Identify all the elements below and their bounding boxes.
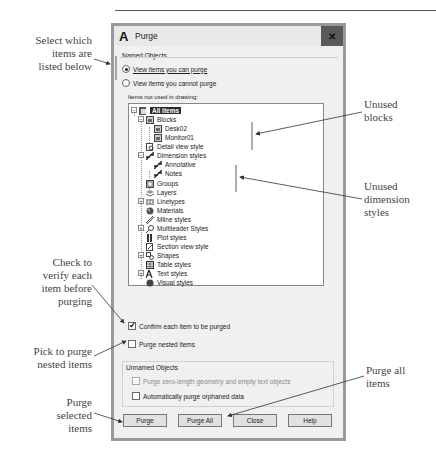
named-objects-divider: [119, 57, 338, 59]
radio-view-can-purge[interactable]: View items you can purge: [122, 65, 207, 73]
shape-icon: [146, 252, 154, 260]
mline-icon: [146, 216, 154, 224]
page-rule: [115, 10, 436, 11]
linetype-icon: [146, 198, 154, 206]
title-bar[interactable]: A Purge ✕: [114, 26, 343, 46]
callout-line: selected: [2, 409, 92, 422]
callout-line: nested items: [2, 358, 92, 371]
callout-purge-all: Purge all items: [366, 364, 405, 390]
tree-item-visual-styles[interactable]: Visual styles: [146, 278, 193, 287]
close-icon: ✕: [328, 31, 336, 42]
layers-icon: [146, 189, 154, 197]
dialog-title: Purge: [135, 31, 158, 41]
purge-nested-items-checkbox[interactable]: Purge nested items: [128, 340, 195, 348]
callout-line: Unused: [364, 180, 410, 193]
tree-item-groups[interactable]: Groups: [146, 179, 178, 188]
tree-item-label: Monitor01: [165, 134, 194, 141]
tree-item-notes[interactable]: Notes: [154, 169, 182, 178]
radio-view-cannot-purge[interactable]: View items you cannot purge: [122, 79, 216, 87]
callout-line: blocks: [364, 111, 398, 124]
help-button[interactable]: Help: [288, 414, 332, 427]
collapse-toggle[interactable]: −: [138, 152, 144, 158]
expand-toggle[interactable]: +: [138, 270, 144, 276]
tree-item-annotative[interactable]: Annotative: [154, 160, 196, 169]
collapse-toggle[interactable]: −: [138, 116, 144, 122]
callout-line: Pick to purge: [2, 345, 92, 358]
purge-all-button[interactable]: Purge All: [178, 414, 222, 427]
tree-item-text-styles[interactable]: Text styles: [146, 269, 187, 278]
block-icon: [154, 134, 162, 142]
tree-item-dimension-styles[interactable]: Dimension styles: [146, 151, 206, 160]
auto-purge-orphaned-checkbox[interactable]: Automatically purge orphaned data: [132, 392, 244, 400]
tree-item-label: Detail view style: [157, 143, 204, 150]
tree-item-label: Notes: [165, 170, 182, 177]
items-tree[interactable]: − All items − Blocks Desk02 Monitor01 De…: [128, 103, 324, 286]
checkbox-checked[interactable]: [128, 322, 136, 330]
dialog-body: A Purge ✕ Named Objects View items you c…: [114, 26, 343, 438]
purge-zero-length-checkbox[interactable]: Purge zero-length geometry and empty tex…: [132, 377, 290, 385]
autocad-app-icon: A: [119, 29, 131, 44]
drawing-icon: [139, 107, 147, 115]
checkbox-disabled[interactable]: [132, 377, 140, 385]
confirm-each-item-checkbox[interactable]: Confirm each item to be purged: [128, 322, 230, 330]
table-icon: [146, 261, 154, 269]
expand-toggle[interactable]: +: [138, 198, 144, 204]
tree-item-blocks[interactable]: Blocks: [146, 115, 176, 124]
tree-item-multileader-styles[interactable]: Multileader Styles: [146, 224, 208, 233]
tree-item-label: Groups: [157, 180, 178, 187]
tree-item-shapes[interactable]: Shapes: [146, 251, 179, 260]
tree-item-label: All items: [150, 107, 181, 114]
checkbox[interactable]: [128, 340, 136, 348]
callout-pick-nested: Pick to purge nested items: [2, 345, 92, 371]
expand-toggle[interactable]: +: [138, 225, 144, 231]
block-icon: [154, 125, 162, 133]
tree-item-table-styles[interactable]: Table styles: [146, 260, 191, 269]
tree-item-label: Text styles: [157, 270, 187, 277]
callout-line: styles: [364, 206, 410, 219]
tree-item-label: Annotative: [165, 161, 196, 168]
callout-line: Purge: [2, 396, 92, 409]
expand-toggle[interactable]: +: [138, 252, 144, 258]
tree-item-label: Materials: [157, 207, 183, 214]
tree-item-section-view-style[interactable]: Section view style: [146, 242, 209, 251]
tree-item-label: Dimension styles: [157, 152, 206, 159]
tree-item-label: Plot styles: [157, 234, 187, 241]
callout-line: item before: [2, 282, 92, 295]
tree-item-linetypes[interactable]: Linetypes: [146, 197, 185, 206]
callout-select-which-items: Select which items are listed below: [2, 34, 92, 73]
callout-check-to-verify: Check to verify each item before purging: [2, 256, 92, 308]
tree-item-detail-view-style[interactable]: Detail view style: [146, 142, 204, 151]
text-style-icon: [146, 270, 154, 278]
tree-item-layers[interactable]: Layers: [146, 188, 177, 197]
callout-line: purging: [2, 295, 92, 308]
close-window-button[interactable]: ✕: [321, 26, 343, 46]
tree-item-mline-styles[interactable]: Mline styles: [146, 215, 191, 224]
collapse-toggle[interactable]: −: [131, 107, 137, 113]
checkbox-label: Purge zero-length geometry and empty tex…: [143, 378, 290, 385]
tree-item-monitor01[interactable]: Monitor01: [154, 133, 194, 142]
tree-item-desk02[interactable]: Desk02: [154, 124, 187, 133]
callout-line: Purge all: [366, 364, 405, 377]
tree-item-label: Mline styles: [157, 216, 191, 223]
dimension-icon: [146, 152, 154, 160]
callout-line: listed below: [2, 60, 92, 73]
checkbox-label: Confirm each item to be purged: [139, 323, 230, 330]
tree-item-materials[interactable]: Materials: [146, 206, 183, 215]
purge-button[interactable]: Purge: [123, 414, 167, 427]
tree-item-plot-styles[interactable]: Plot styles: [146, 233, 187, 242]
tree-item-all-items[interactable]: All items: [139, 106, 181, 115]
callout-unused-dimension-styles: Unused dimension styles: [364, 180, 410, 219]
visual-style-icon: [146, 279, 154, 287]
tree-item-label: Blocks: [157, 116, 176, 123]
callout-line: items: [2, 422, 92, 435]
callout-unused-blocks: Unused blocks: [364, 98, 398, 124]
close-button[interactable]: Close: [233, 414, 277, 427]
callout-line: dimension: [364, 193, 410, 206]
checkbox[interactable]: [132, 392, 140, 400]
detail-view-icon: [146, 143, 154, 151]
radio-button-selected[interactable]: [122, 65, 130, 73]
purge-dialog: A Purge ✕ Named Objects View items you c…: [111, 23, 346, 441]
tree-item-label: Section view style: [157, 243, 209, 250]
block-icon: [146, 116, 154, 124]
radio-button[interactable]: [122, 79, 130, 87]
